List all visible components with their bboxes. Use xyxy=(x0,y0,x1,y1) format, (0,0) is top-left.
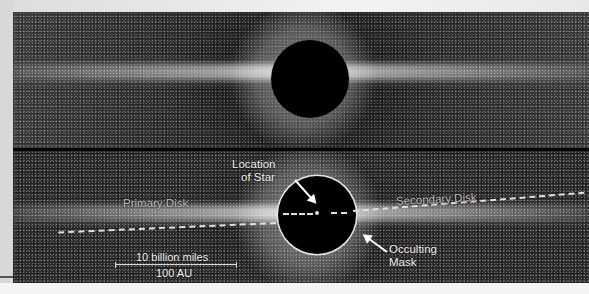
raw-disk-panel xyxy=(13,12,589,148)
star-location-dot xyxy=(315,211,319,215)
inner-disk-tracer-right xyxy=(331,212,347,214)
inner-disk-tracer-left xyxy=(283,213,313,215)
occulting-mask xyxy=(278,176,356,254)
primary-disk-label: Primary Disk xyxy=(123,197,188,209)
page-background-bottom xyxy=(0,283,589,294)
page-background-left xyxy=(0,0,13,294)
scale-bar-au-label: 100 AU xyxy=(156,267,192,279)
location-of-star-label-line1: Location xyxy=(232,158,275,170)
occulting-mask-label-line2: Mask xyxy=(389,256,416,268)
scale-bar-miles-label: 10 billion miles xyxy=(136,251,208,263)
location-of-star-label-line2: of Star xyxy=(241,171,275,183)
occulting-mask-label-line1: Occulting xyxy=(389,243,437,255)
scale-bar-right-tick xyxy=(236,262,237,268)
left-margin-rule xyxy=(0,276,13,278)
scale-bar xyxy=(115,264,237,265)
scale-bar-left-tick xyxy=(115,262,116,268)
annotated-disk-panel: Location of Star Primary Disk Secondary … xyxy=(13,151,589,283)
page-background-top xyxy=(0,0,589,12)
occulting-mask xyxy=(271,40,349,118)
